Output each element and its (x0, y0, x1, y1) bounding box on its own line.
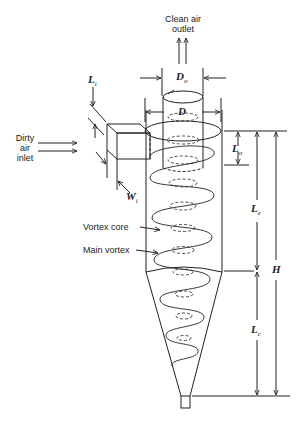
vortex-core-leader (140, 227, 160, 230)
dim-subscript: i (136, 197, 138, 205)
label-line: Clean air (160, 14, 206, 24)
dimension-Wi (96, 150, 130, 193)
dim-subscript: o (184, 77, 188, 85)
label-line: inlet (12, 153, 38, 163)
dirty-air-inlet-label: Dirty air inlet (12, 133, 38, 163)
cyclone-cone (146, 272, 222, 408)
clean-air-outlet-label: Clean air outlet (160, 14, 206, 34)
dimension-Li (88, 87, 106, 138)
label-line: Dirty (12, 133, 38, 143)
main-vortex-spiral (150, 146, 214, 366)
outlet-flow-arrows (179, 38, 186, 64)
vortex-core-label: Vortex core (83, 222, 129, 232)
label-line: outlet (160, 24, 206, 34)
dim-symbol: D (178, 105, 186, 117)
Le-label: Le (251, 203, 261, 219)
D-label: D (178, 106, 186, 117)
inlet-duct (107, 124, 150, 159)
dim-symbol: L (232, 142, 239, 154)
dim-subscript: i (95, 80, 97, 88)
Wi-label: Wi (126, 191, 138, 207)
dim-symbol: L (88, 73, 95, 85)
main-vortex-leader (136, 250, 158, 253)
inlet-flow-arrows (38, 143, 77, 151)
dim-symbol: H (272, 263, 281, 275)
outlet-tube (163, 90, 203, 172)
H-label: H (272, 264, 281, 275)
dim-subscript: c (258, 330, 261, 338)
dim-symbol: L (251, 202, 258, 214)
Lo-label: Lo (232, 143, 242, 159)
Lc-label: Lc (251, 324, 261, 340)
dim-subscript: e (258, 209, 261, 217)
dim-symbol: L (251, 323, 258, 335)
main-vortex-label: Main vortex (83, 245, 130, 255)
dim-subscript: o (239, 149, 243, 157)
dim-symbol: W (126, 190, 136, 202)
label-line: air (12, 143, 38, 153)
dim-symbol: D (176, 70, 184, 82)
cyclone-top (145, 121, 221, 141)
Do-label: Do (176, 71, 187, 87)
Li-label: Li (88, 74, 97, 90)
